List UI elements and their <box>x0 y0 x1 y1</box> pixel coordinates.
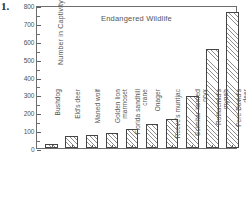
x-axis-tick <box>112 145 113 149</box>
x-axis-tick <box>172 145 173 149</box>
x-axis-tick <box>212 145 213 149</box>
x-axis-category-label-line: crane <box>142 89 149 151</box>
y-axis-tick-label: 700 <box>13 22 35 29</box>
x-axis-category-label: Reeve's muntjac <box>174 89 181 151</box>
x-axis-category-label: Pere David'sdeer <box>235 89 246 151</box>
x-axis-category-label-line: Pere David's <box>235 89 242 127</box>
x-axis-category-label-line: Florida sandhill <box>134 89 141 134</box>
x-axis-category-label-line: Maned wolf <box>94 89 101 123</box>
x-axis-category-label-line: Rothschild's <box>215 89 222 125</box>
x-axis-tick <box>92 145 93 149</box>
x-axis-category-label: Golden lionmarmoset <box>114 89 129 151</box>
y-axis-tick-label: 500 <box>13 57 35 64</box>
x-axis-category-label-line: mynah <box>222 89 229 151</box>
x-axis-category-label: Rothschild'smynah <box>215 89 230 151</box>
x-axis-category-label: Maned wolf <box>94 89 101 151</box>
x-axis-tick <box>52 145 53 149</box>
y-axis-tick-label: 200 <box>13 111 35 118</box>
x-axis-category-label-line: Onager <box>154 89 161 111</box>
x-axis-category-label: Scimitar hornedoryx <box>194 89 209 151</box>
x-axis-category-label-line: Bushdog <box>54 89 61 115</box>
item-number: 1. <box>1 0 9 12</box>
x-axis-tick <box>72 145 73 149</box>
y-axis-tick-label: 400 <box>13 75 35 82</box>
x-axis-category-label-line: Golden lion <box>114 89 121 123</box>
x-axis-category-label: Bushdog <box>54 89 61 151</box>
x-axis-category-label-line: Reeve's muntjac <box>174 89 181 138</box>
y-axis-tick-label: 0 <box>13 147 35 154</box>
x-axis-tick <box>152 145 153 149</box>
x-axis-category-labels: BushdogEld's deerManed wolfGolden lionma… <box>36 151 237 215</box>
x-axis-tick <box>232 145 233 149</box>
y-axis-tick-label: 100 <box>13 129 35 136</box>
y-axis-tick-label: 600 <box>13 40 35 47</box>
x-axis-category-label-line: oryx <box>202 89 209 151</box>
x-axis-category-label: Eld's deer <box>74 89 81 151</box>
x-axis-category-label: Onager <box>154 89 161 151</box>
y-axis-tick-label: 300 <box>13 93 35 100</box>
x-axis-category-label-line: Scimitar horned <box>194 89 201 136</box>
x-axis-category-label-line: deer <box>242 89 246 151</box>
x-axis-category-label-line: marmoset <box>121 89 128 151</box>
figure-container: 1. Endangered Wildlife Number in Captivi… <box>0 0 246 217</box>
y-axis-tick-label: 800 <box>13 4 35 11</box>
x-axis-category-label: Florida sandhillcrane <box>134 89 149 151</box>
x-axis-tick <box>132 145 133 149</box>
x-axis-category-label-line: Eld's deer <box>74 89 81 119</box>
